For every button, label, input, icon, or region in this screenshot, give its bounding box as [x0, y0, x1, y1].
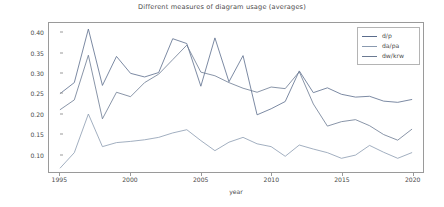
x-tick-mark	[342, 173, 343, 176]
legend-item: dw/krw	[358, 51, 419, 61]
legend-line-icon	[362, 46, 377, 47]
legend-item: d/p	[358, 31, 419, 41]
x-tick-label: 1995	[39, 176, 79, 183]
legend-label: dw/krw	[382, 53, 404, 59]
x-tick-label: 2005	[181, 176, 221, 183]
chart-legend: d/pda/padw/krw	[357, 27, 420, 65]
chart-figure: Different measures of diagram usage (ave…	[0, 0, 444, 207]
x-tick-mark	[130, 173, 131, 176]
x-tick-label: 2000	[110, 176, 150, 183]
x-tick-mark	[413, 173, 414, 176]
x-tick-mark	[271, 173, 272, 176]
x-tick-label: 2010	[251, 176, 291, 183]
legend-item: da/pa	[358, 41, 419, 51]
x-tick-mark	[201, 173, 202, 176]
legend-label: da/pa	[382, 43, 399, 49]
legend-line-icon	[362, 56, 377, 57]
legend-label: d/p	[382, 33, 392, 39]
x-axis-label: year	[48, 188, 424, 195]
x-tick-label: 2015	[322, 176, 362, 183]
x-tick-label: 2020	[393, 176, 433, 183]
legend-line-icon	[362, 36, 377, 37]
x-tick-mark	[59, 173, 60, 176]
